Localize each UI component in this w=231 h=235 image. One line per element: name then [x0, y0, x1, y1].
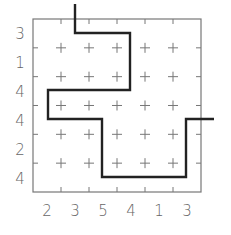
- col-clue: 4: [121, 202, 141, 220]
- row-clue: 1: [10, 54, 30, 72]
- track-path: [48, 4, 214, 177]
- row-clue: 3: [10, 25, 30, 43]
- grid-ticks: [33, 19, 201, 192]
- row-clue: 4: [10, 112, 30, 130]
- col-clue: 2: [37, 202, 57, 220]
- row-clue: 2: [10, 141, 30, 159]
- puzzle-grid: [0, 0, 231, 235]
- col-clue: 3: [177, 202, 197, 220]
- row-clue: 4: [10, 83, 30, 101]
- col-clue: 1: [149, 202, 169, 220]
- col-clue: 5: [93, 202, 113, 220]
- col-clue: 3: [65, 202, 85, 220]
- row-clue: 4: [10, 170, 30, 188]
